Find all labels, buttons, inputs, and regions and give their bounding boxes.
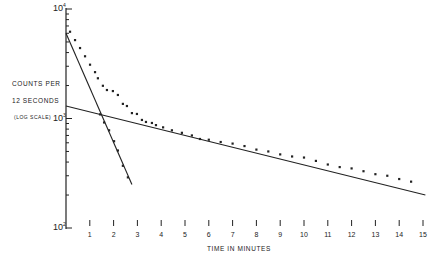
svg-text:12: 12: [348, 231, 356, 238]
svg-text:3: 3: [135, 231, 139, 238]
decay-chart: 123456789101112131415: [0, 0, 440, 258]
data-points: [69, 31, 412, 183]
svg-text:11: 11: [324, 231, 331, 238]
svg-text:8: 8: [254, 231, 258, 238]
svg-text:7: 7: [231, 231, 235, 238]
fit-lines: [66, 33, 425, 195]
x-axis-ticks: 123456789101112131415: [88, 220, 427, 238]
y-label-line-2: 12 SECONDS: [12, 97, 59, 104]
svg-text:9: 9: [278, 231, 282, 238]
y-tick-label: 104: [53, 2, 66, 13]
x-axis-label: TIME IN MINUTES: [207, 245, 271, 252]
y-label-line-3: (LOG SCALE): [14, 114, 51, 120]
svg-text:2: 2: [112, 231, 116, 238]
svg-text:5: 5: [183, 231, 187, 238]
y-axis-ticks: [66, 9, 72, 228]
svg-text:6: 6: [207, 231, 211, 238]
svg-text:15: 15: [419, 231, 427, 238]
svg-text:10: 10: [300, 231, 308, 238]
svg-text:1: 1: [88, 231, 92, 238]
svg-text:4: 4: [159, 231, 163, 238]
y-tick-label: 103: [53, 112, 66, 123]
y-tick-label: 102: [53, 221, 66, 232]
y-label-line-1: COUNTS PER: [12, 80, 61, 87]
svg-text:13: 13: [372, 231, 380, 238]
svg-text:14: 14: [395, 231, 403, 238]
